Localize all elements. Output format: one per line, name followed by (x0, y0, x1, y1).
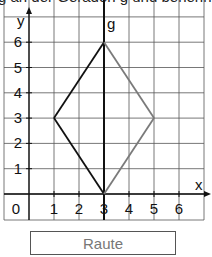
mirror-line-label: g (107, 15, 115, 32)
x-axis-label: x (195, 176, 203, 193)
x-axis-arrow-icon (204, 191, 211, 197)
tick-labels: 1234561234560 (12, 33, 183, 217)
x-tick-label: 2 (75, 200, 83, 217)
y-tick-label: 1 (14, 160, 22, 177)
coordinate-grid: xy 1234561234560 g (0, 0, 212, 230)
y-axis-arrow-icon (26, 7, 32, 14)
answer-label: Raute (83, 235, 123, 252)
x-tick-label: 1 (50, 200, 58, 217)
origin-label: 0 (12, 200, 20, 217)
y-tick-label: 5 (14, 59, 22, 76)
y-tick-label: 2 (14, 134, 22, 151)
x-tick-label: 4 (125, 200, 133, 217)
x-tick-label: 5 (150, 200, 158, 217)
y-tick-label: 3 (14, 109, 22, 126)
answer-box[interactable]: Raute (30, 231, 176, 255)
y-tick-label: 6 (14, 33, 22, 50)
x-tick-label: 6 (175, 200, 183, 217)
y-axis-label: y (17, 12, 25, 29)
y-tick-label: 4 (14, 84, 22, 101)
